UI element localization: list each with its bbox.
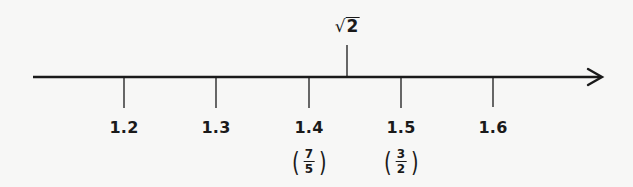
fraction-denominator: 5 [305, 162, 313, 175]
sqrt2-radicand: 2 [346, 17, 360, 36]
right-paren: ) [318, 149, 326, 175]
left-paren: ( [384, 149, 392, 175]
fraction-7-5: 7 5 [304, 148, 314, 175]
fraction-numerator: 7 [304, 148, 314, 162]
fraction-3-2: 3 2 [396, 148, 406, 175]
tick-label-1-3: 1.3 [201, 118, 230, 137]
number-line-diagram: √2 1.2 1.3 1.4 1.5 1.6 ( 7 5 ) ( 3 2 ) [0, 0, 633, 187]
right-paren: ) [410, 149, 418, 175]
radical-sign-icon: √ [335, 16, 346, 36]
fraction-denominator: 2 [397, 162, 405, 175]
tick-label-1-6: 1.6 [478, 118, 507, 137]
sqrt2-label: √2 [335, 16, 360, 36]
tick-label-1-2: 1.2 [109, 118, 138, 137]
fraction-label-7-5: ( 7 5 ) [291, 148, 328, 175]
tick-label-1-5: 1.5 [386, 118, 415, 137]
fraction-label-3-2: ( 3 2 ) [383, 148, 420, 175]
tick-label-1-4: 1.4 [294, 118, 323, 137]
left-paren: ( [292, 149, 300, 175]
fraction-numerator: 3 [396, 148, 406, 162]
